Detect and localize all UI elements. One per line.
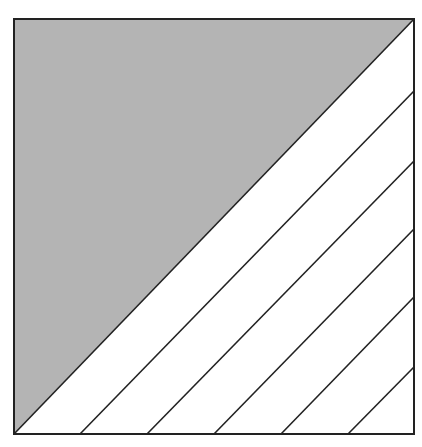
striped-square-diagram — [0, 0, 422, 447]
